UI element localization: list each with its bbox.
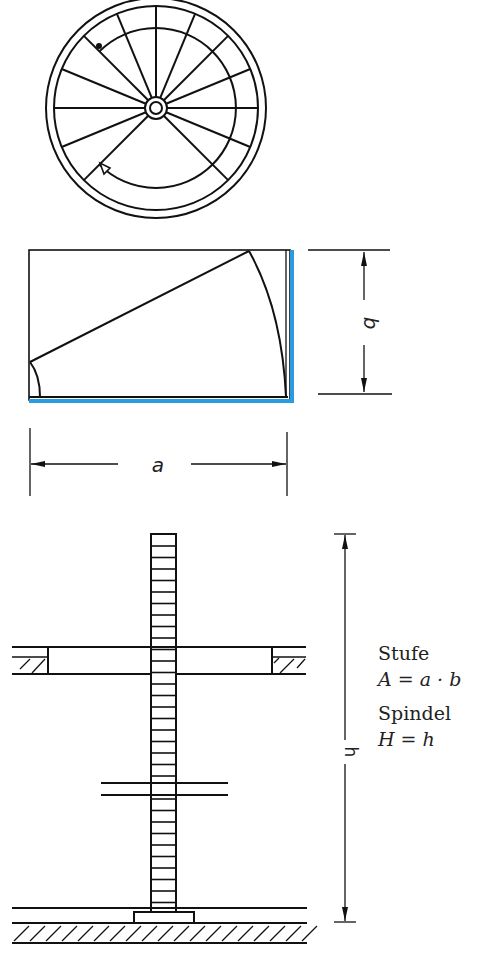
dimension-h-label: h [341, 747, 361, 758]
tread-detail [29, 250, 292, 403]
elevation-view [12, 534, 317, 943]
dimension-h: h [334, 534, 361, 922]
spindle-label: Spindel [378, 700, 461, 726]
dimension-b-label: b [359, 317, 383, 330]
dimension-a: a [30, 428, 287, 496]
tread-formula: A = a · b [378, 666, 461, 692]
tread-label: Stufe [378, 640, 461, 666]
dimension-a-label: a [152, 453, 164, 477]
formula-legend: Stufe A = a · b Spindel H = h [378, 640, 461, 752]
top-view-plan [46, 0, 266, 218]
start-dot [96, 43, 102, 49]
staircase-diagram: b a [0, 0, 500, 963]
spindle-formula: H = h [378, 726, 461, 752]
dimension-b: b [308, 250, 392, 394]
